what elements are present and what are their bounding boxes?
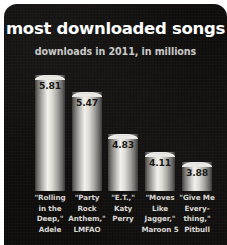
bar-2[interactable]: 4.83 xyxy=(108,134,138,191)
category-label-1-line-3: LMFAO xyxy=(65,225,109,236)
category-label-4-line-1: Every- xyxy=(175,204,219,215)
bar-4[interactable]: 3.88 xyxy=(182,162,212,191)
category-label-4-line-0: "Give Me xyxy=(175,193,219,204)
bar-value-4: 3.88 xyxy=(182,167,212,178)
bar-value-2: 4.83 xyxy=(108,139,138,150)
bar-0[interactable]: 5.81 xyxy=(35,75,65,191)
category-label-4: "Give Me Every- thing," Pitbull xyxy=(175,193,219,235)
bar-value-1: 5.47 xyxy=(72,97,102,108)
chart-panel: most downloaded songs downloads in 2011,… xyxy=(4,4,227,245)
bar-value-3: 4.11 xyxy=(145,157,175,168)
category-label-4-line-2: thing," xyxy=(175,214,219,225)
plot-area: 5.81 5.47 4.83 4.11 3.88 xyxy=(4,64,227,191)
category-label-4-line-3: Pitbull xyxy=(175,225,219,236)
bar-value-0: 5.81 xyxy=(35,80,65,91)
bar-1[interactable]: 5.47 xyxy=(72,92,102,191)
bar-3[interactable]: 4.11 xyxy=(145,152,175,191)
chart-title: most downloaded songs xyxy=(4,21,227,38)
chart-subtitle: downloads in 2011, in millions xyxy=(4,47,227,57)
